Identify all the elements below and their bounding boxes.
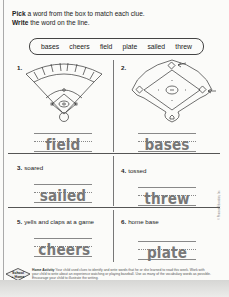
answer-lines-2: bases: [138, 133, 196, 152]
item-3-clue-text: soared: [24, 164, 43, 171]
item-4-clue-text: tossed: [128, 167, 146, 174]
worksheet-page: Pick a word from the box to match each c…: [0, 0, 229, 297]
item-6-clue: 6.home base: [121, 218, 159, 225]
word-threw: threw: [175, 43, 192, 50]
answer-lines-1: field: [34, 133, 92, 152]
word-field: field: [100, 43, 112, 50]
item-3-number: 3.: [17, 164, 22, 171]
answer-1[interactable]: field: [38, 135, 87, 154]
word-bases: bases: [41, 43, 59, 50]
answer-lines-5: cheers: [34, 238, 92, 257]
word-box: bases cheers field plate sailed threw: [29, 38, 204, 55]
instruction-write-bold: Write: [12, 19, 28, 26]
answer-4[interactable]: threw: [142, 189, 191, 208]
answer-3[interactable]: sailed: [38, 186, 87, 205]
answer-lines-4: threw: [138, 187, 196, 206]
copyright-text: © Pearson Education, Inc.: [218, 190, 221, 220]
page-bottom-shadow: [0, 280, 229, 297]
instruction-pick-bold: Pick: [12, 10, 26, 17]
item-6-clue-text: home base: [128, 218, 159, 225]
word-sailed: sailed: [147, 43, 165, 50]
instruction-line2: the word on the line.: [28, 19, 89, 26]
answer-6[interactable]: plate: [142, 243, 191, 262]
divider-vertical-2: [113, 156, 114, 206]
word-cheers: cheers: [69, 43, 89, 50]
page-edge: [3, 0, 4, 282]
instructions: Pick a word from the box to match each c…: [12, 9, 145, 27]
item-5-number: 5.: [17, 218, 22, 225]
instruction-line1: a word from the box to match each clue.: [26, 10, 145, 17]
divider-vertical-1: [113, 60, 114, 152]
home-activity-body: Your child used clues to identify and wr…: [32, 268, 211, 280]
home-activity-text: Home Activity Your child used clues to i…: [32, 268, 212, 281]
item-2-number: 2.: [121, 64, 126, 71]
item-5-clue: 5.yells and claps at a game: [17, 218, 94, 225]
item-5-clue-text: yells and claps at a game: [24, 218, 94, 225]
item-4-number: 4.: [121, 167, 126, 174]
answer-5[interactable]: cheers: [38, 240, 87, 259]
word-plate: plate: [123, 43, 138, 50]
answer-lines-6: plate: [138, 241, 196, 260]
item-4-clue: 4.tossed: [121, 167, 146, 174]
answer-2[interactable]: bases: [142, 135, 191, 154]
answer-lines-3: sailed: [34, 184, 92, 203]
item-6-number: 6.: [121, 218, 126, 225]
divider-vertical-3: [113, 210, 114, 262]
baseball-diamond-icon: [130, 58, 220, 126]
item-3-clue: 3.soared: [17, 164, 43, 171]
baseball-field-icon: [20, 60, 108, 124]
svg-text:+ Home: + Home: [11, 275, 24, 279]
